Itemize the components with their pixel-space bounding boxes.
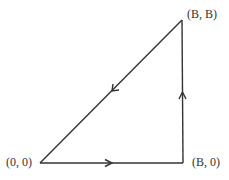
vertex-label-bb: (B, B) [187, 7, 217, 22]
vertex-label-origin: (0, 0) [6, 155, 32, 170]
edge-hypotenuse [40, 20, 182, 163]
triangle-contour-diagram: (B, B) (0, 0) (B, 0) [0, 0, 229, 180]
vertex-label-b0: (B, 0) [192, 155, 220, 170]
contour-svg [0, 0, 229, 180]
